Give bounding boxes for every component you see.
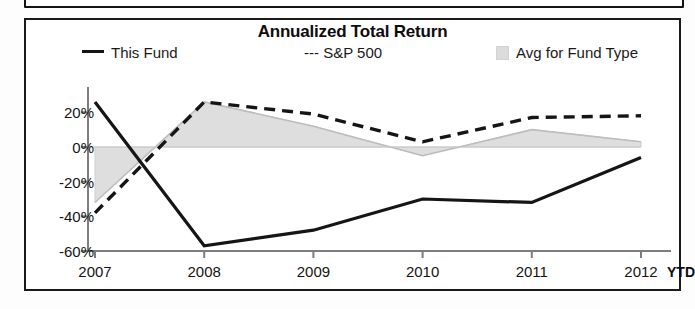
x-axis-tick-labels: 200720082009201020112012 [26, 20, 683, 293]
annualized-total-return-panel: Annualized Total Return This Fund --- S&… [24, 18, 681, 291]
ytd-suffix-label: YTD [667, 264, 695, 280]
scanned-page: Annualized Total Return This Fund --- S&… [0, 0, 695, 309]
x-tick-label: 2009 [297, 263, 330, 280]
x-tick-label: 2010 [406, 263, 439, 280]
clipped-panel-above [24, 0, 684, 8]
x-tick-label: 2012 [624, 263, 657, 280]
x-tick-label: 2011 [516, 263, 548, 280]
x-tick-label: 2007 [78, 263, 111, 280]
x-tick-label: 2008 [188, 263, 221, 280]
plot-area: 20%0%-20%-40%-60% 2007200820092010201120… [26, 20, 683, 293]
